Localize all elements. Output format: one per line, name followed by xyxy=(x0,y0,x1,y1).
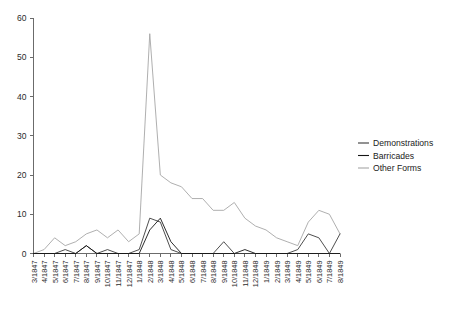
y-tick-label: 60 xyxy=(17,13,27,23)
x-tick-label: 3/1849 xyxy=(283,261,292,284)
legend-label: Demonstrations xyxy=(373,138,433,148)
legend-label: Barricades xyxy=(373,151,414,161)
line-chart: 0102030405060 3/18474/18475/18476/18477/… xyxy=(0,0,452,326)
x-tick-label: 7/1848 xyxy=(199,261,208,284)
chart-container: 0102030405060 3/18474/18475/18476/18477/… xyxy=(0,0,452,326)
x-tick-label: 7/1847 xyxy=(72,261,81,284)
y-tick-label: 10 xyxy=(17,209,27,219)
legend: DemonstrationsBarricadesOther Forms xyxy=(358,138,433,173)
y-tick-group: 0102030405060 xyxy=(17,13,33,259)
x-tick-label: 12/1847 xyxy=(125,261,134,288)
x-tick-label: 1/1848 xyxy=(135,261,144,284)
y-tick-label: 30 xyxy=(17,131,27,141)
legend-label: Other Forms xyxy=(373,163,421,173)
x-tick-label: 10/1848 xyxy=(230,261,239,288)
x-tick-label: 4/1847 xyxy=(40,261,49,284)
x-tick-label: 12/1848 xyxy=(251,261,260,288)
y-tick-label: 50 xyxy=(17,52,27,62)
x-tick-group: 3/18474/18475/18476/18477/18478/18479/18… xyxy=(30,254,346,288)
x-tick-label: 4/1848 xyxy=(167,261,176,284)
x-tick-label: 5/1848 xyxy=(177,261,186,284)
x-tick-label: 2/1848 xyxy=(146,261,155,284)
y-tick-label: 40 xyxy=(17,92,27,102)
x-tick-label: 6/1848 xyxy=(188,261,197,284)
x-tick-label: 6/1847 xyxy=(61,261,70,284)
x-tick-label: 1/1849 xyxy=(262,261,271,284)
x-tick-label: 10/1847 xyxy=(103,261,112,288)
x-tick-label: 3/1847 xyxy=(30,261,39,284)
y-tick-label: 20 xyxy=(17,170,27,180)
x-tick-label: 8/1848 xyxy=(209,261,218,284)
series-line-demonstrations xyxy=(34,218,341,253)
x-tick-label: 3/1848 xyxy=(156,261,165,284)
x-tick-label: 8/1847 xyxy=(82,261,91,284)
x-tick-label: 4/1849 xyxy=(294,261,303,284)
x-tick-label: 7/1849 xyxy=(325,261,334,284)
x-tick-label: 9/1847 xyxy=(93,261,102,284)
series-line-barricades xyxy=(34,218,341,253)
x-tick-label: 6/1849 xyxy=(315,261,324,284)
x-tick-label: 11/1847 xyxy=(114,261,123,287)
x-tick-label: 5/1847 xyxy=(51,261,60,284)
x-tick-label: 2/1849 xyxy=(273,261,282,284)
x-tick-label: 5/1849 xyxy=(304,261,313,284)
x-tick-label: 9/1848 xyxy=(220,261,229,284)
x-tick-label: 8/1849 xyxy=(336,261,345,284)
y-tick-label: 0 xyxy=(22,249,27,259)
series-group xyxy=(34,34,341,254)
x-tick-label: 11/1848 xyxy=(241,261,250,287)
series-line-other-forms xyxy=(34,34,341,254)
